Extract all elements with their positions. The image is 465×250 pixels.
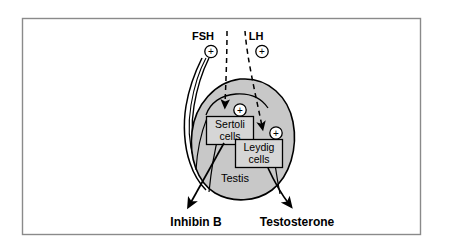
- leydig-cells-box: Leydig cells: [236, 140, 283, 168]
- fsh-label: FSH: [192, 30, 214, 42]
- sertoli-cells-label-line1: Sertoli: [215, 118, 245, 130]
- inhibin-b-label: Inhibin B: [170, 215, 222, 229]
- testis-label: Testis: [221, 172, 250, 184]
- leydig-plus-circle-icon: +: [270, 127, 282, 139]
- leydig-plus-symbol: +: [273, 128, 279, 139]
- testis-regulation-diagram: FSH + LH + + + Sertoli cells: [0, 0, 465, 250]
- figure-root: FSH + LH + + + Sertoli cells: [0, 0, 465, 250]
- leydig-cells-label-line1: Leydig: [244, 141, 275, 153]
- leydig-cells-label-line2: cells: [248, 153, 269, 165]
- lh-plus-symbol: +: [259, 46, 265, 57]
- testosterone-label: Testosterone: [260, 215, 335, 229]
- sertoli-plus-circle-icon: +: [234, 104, 246, 116]
- fsh-plus-circle-icon: +: [205, 45, 217, 57]
- sertoli-plus-symbol: +: [237, 105, 243, 116]
- lh-label: LH: [249, 30, 264, 42]
- fsh-plus-symbol: +: [208, 46, 214, 57]
- lh-plus-circle-icon: +: [256, 45, 268, 57]
